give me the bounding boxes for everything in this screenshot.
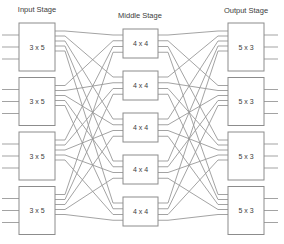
input-middle-connection bbox=[55, 52, 123, 194]
input-middle-connection bbox=[55, 31, 123, 35]
output-stage-label: Output Stage bbox=[224, 7, 268, 15]
input-middle-connection bbox=[55, 96, 123, 125]
middle-output-connection bbox=[158, 51, 228, 203]
middle-output-connection bbox=[158, 52, 228, 194]
middle-output-connection bbox=[158, 31, 228, 35]
input-middle-connection bbox=[55, 51, 123, 203]
output-switch-4-label: 5 x 3 bbox=[238, 207, 253, 214]
input-stage-label: Input Stage bbox=[18, 6, 56, 14]
middle-stage-label: Middle Stage bbox=[118, 12, 162, 20]
output-switch-3-label: 5 x 3 bbox=[238, 153, 253, 160]
clos-network-diagram: Input Stage Middle Stage Output Stage 3 … bbox=[0, 0, 284, 244]
middle-output-connection bbox=[158, 215, 228, 221]
middle-output-connection bbox=[158, 160, 228, 215]
network-graph: 3 x 53 x 53 x 53 x 54 x 44 x 44 x 44 x 4… bbox=[0, 0, 284, 244]
middle-switch-4-label: 4 x 4 bbox=[133, 166, 148, 173]
input-switch-2-label: 3 x 5 bbox=[29, 98, 44, 105]
output-switch-2-label: 5 x 3 bbox=[238, 98, 253, 105]
input-switch-3-label: 3 x 5 bbox=[29, 153, 44, 160]
output-switch-1-label: 5 x 3 bbox=[238, 44, 253, 51]
middle-switch-3-label: 4 x 4 bbox=[133, 124, 148, 131]
middle-switch-1-label: 4 x 4 bbox=[133, 40, 148, 47]
middle-switch-5-label: 4 x 4 bbox=[133, 208, 148, 215]
input-middle-connection bbox=[55, 215, 123, 221]
input-switch-4-label: 3 x 5 bbox=[29, 207, 44, 214]
input-switch-1-label: 3 x 5 bbox=[29, 44, 44, 51]
middle-output-connection bbox=[158, 96, 228, 125]
middle-switch-2-label: 4 x 4 bbox=[133, 82, 148, 89]
input-middle-connection bbox=[55, 160, 123, 215]
